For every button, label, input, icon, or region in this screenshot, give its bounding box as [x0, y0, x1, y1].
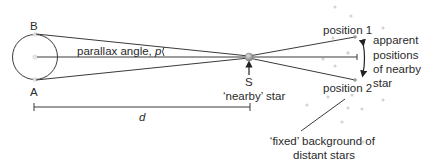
label-nearby-star: ‘nearby’ star	[223, 90, 285, 102]
apparent-shift-arrow	[363, 43, 365, 74]
label-point-b: B	[30, 20, 38, 32]
label-apparent-positions: apparent positions of nearby star	[373, 34, 424, 89]
label-star-s: S	[245, 76, 253, 88]
label-parallax-angle: parallax angle, p	[77, 45, 162, 57]
label-distance-d: d	[139, 111, 146, 123]
nearby-star-icon	[245, 53, 253, 61]
parallax-diagram: B A parallax angle, p S ‘nearby’ star po…	[0, 0, 425, 166]
label-point-a: A	[30, 86, 38, 98]
sun-icon	[32, 54, 37, 59]
parallax-angle-arc	[163, 47, 165, 56]
label-position-1: position 1	[323, 24, 372, 36]
distance-bar	[34, 103, 250, 111]
label-background-stars: ‘fixed’ background of distant stars	[270, 135, 378, 161]
label-position-2: position 2	[323, 82, 372, 94]
sight-lines	[36, 34, 357, 80]
